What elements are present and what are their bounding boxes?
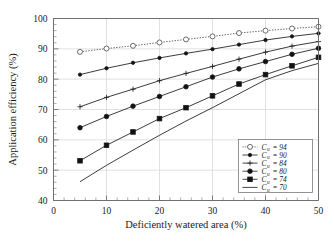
series-marker-3 [290,52,295,57]
y-tick-label: 70 [38,105,48,115]
x-axis-title: Deficiently watered area (%) [125,219,247,231]
series-marker-1 [264,38,267,41]
series-marker-0 [237,31,242,36]
series-marker-0 [157,40,162,45]
series-marker-0 [290,26,295,31]
legend-marker-1 [248,153,251,156]
x-tick-label: 30 [208,206,218,216]
legend-subscript-4: u [267,179,270,185]
series-marker-0 [184,37,189,42]
series-marker-1 [105,67,108,70]
y-tick-label: 100 [33,14,48,24]
series-marker-3 [157,94,162,99]
x-tick-label: 40 [261,206,271,216]
legend-subscript-5: u [267,187,270,193]
series-marker-1 [78,73,81,76]
legend-value-5: = 70 [273,183,288,192]
series-marker-1 [158,56,161,59]
series-marker-3 [131,104,136,109]
legend-subscript-1: u [267,154,270,160]
series-marker-0 [78,49,83,54]
series-marker-4 [210,94,215,99]
series-marker-4 [131,130,136,135]
series-marker-1 [184,52,187,55]
series-marker-3 [78,125,83,130]
series-marker-1 [211,47,214,50]
y-tick-label: 90 [38,44,48,54]
series-marker-0 [210,34,215,39]
series-marker-4 [184,105,189,110]
series-marker-4 [78,158,83,163]
x-tick-label: 50 [314,206,324,216]
series-marker-3 [184,84,189,89]
legend-subscript-0: u [267,146,270,152]
legend-subscript-2: u [267,163,270,169]
legend-marker-4 [248,177,253,182]
series-marker-0 [263,28,268,33]
legend-marker-3 [248,169,253,174]
series-marker-4 [157,116,162,121]
chart-figure: 01020304050405060708090100Deficiently wa… [0,0,334,242]
y-tick-label: 80 [38,75,48,85]
series-marker-4 [237,82,242,87]
y-tick-label: 50 [38,166,48,176]
series-marker-0 [131,43,136,48]
series-marker-1 [290,35,293,38]
series-marker-3 [104,114,109,119]
series-marker-1 [131,61,134,64]
legend-marker-0 [248,144,253,149]
y-axis-title: Application efficiency (%) [7,53,19,166]
series-marker-3 [263,59,268,64]
y-tick-label: 60 [38,135,48,145]
legend-subscript-3: u [267,171,270,177]
series-marker-4 [290,64,295,69]
legend-symbol-5: C [262,183,267,192]
line-chart: 01020304050405060708090100Deficiently wa… [0,0,334,242]
series-marker-3 [237,67,242,72]
x-tick-label: 10 [102,206,112,216]
x-tick-label: 0 [51,206,56,216]
y-tick-label: 40 [38,196,48,206]
series-marker-4 [104,143,109,148]
series-marker-4 [263,72,268,77]
series-marker-0 [104,46,109,51]
series-marker-1 [237,43,240,46]
x-tick-label: 20 [155,206,165,216]
series-marker-3 [210,75,215,80]
